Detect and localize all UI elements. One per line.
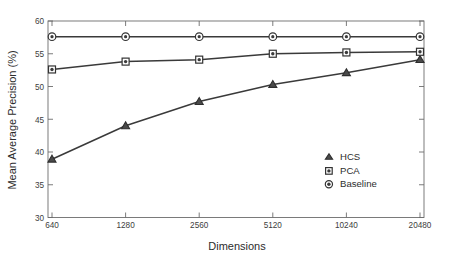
data-point-marker-dot — [50, 68, 53, 71]
y-axis-title: Mean Average Precision (%) — [6, 50, 18, 189]
legend-entry-pca: PCA — [326, 165, 361, 176]
triangle-marker-icon — [325, 154, 332, 159]
x-axis-title: Dimensions — [208, 240, 266, 252]
series-baseline — [48, 33, 424, 41]
series-line — [52, 52, 420, 70]
data-point-marker-dot — [418, 50, 421, 53]
x-tick-label: 5120 — [264, 221, 283, 230]
x-tick-label: 20480 — [409, 221, 432, 230]
x-tick-label: 640 — [45, 221, 59, 230]
data-point-marker-dot — [198, 58, 201, 61]
x-tick-label: 10240 — [335, 221, 358, 230]
series-line — [52, 60, 420, 160]
circle-marker-center-dot-icon — [327, 183, 330, 186]
legend-label: Baseline — [340, 178, 377, 189]
data-point-marker-dot — [198, 35, 201, 38]
x-axis-tick-labels: 640 1280 2560 5120 10240 20480 — [45, 221, 432, 230]
legend-label: HCS — [340, 151, 360, 162]
data-point-marker-dot — [345, 35, 348, 38]
y-tick-label: 50 — [35, 83, 45, 92]
y-tick-label: 40 — [35, 148, 45, 157]
series-layer — [48, 33, 424, 162]
line-chart: 60 55 50 45 40 35 30 640 1280 — [0, 0, 454, 266]
data-point-marker — [416, 56, 424, 63]
y-tick-label: 55 — [35, 50, 45, 59]
series-hcs — [48, 56, 424, 162]
y-tick-label: 30 — [35, 214, 45, 223]
chart-legend: HCS PCA Baseline — [325, 151, 377, 189]
data-point-marker-dot — [271, 52, 274, 55]
square-marker-center-dot-icon — [327, 169, 330, 172]
data-point-marker-dot — [271, 35, 274, 38]
legend-entry-hcs: HCS — [325, 151, 360, 162]
data-point-marker-dot — [418, 35, 421, 38]
legend-entry-baseline: Baseline — [325, 178, 377, 189]
data-point-marker-dot — [345, 51, 348, 54]
y-tick-label: 60 — [35, 17, 45, 26]
y-axis-tick-labels: 60 55 50 45 40 35 30 — [35, 17, 45, 223]
data-point-marker-dot — [124, 35, 127, 38]
x-tick-label: 1280 — [116, 221, 135, 230]
data-point-marker-dot — [50, 35, 53, 38]
legend-label: PCA — [340, 165, 360, 176]
chart-page: 60 55 50 45 40 35 30 640 1280 — [0, 0, 454, 266]
data-point-marker-dot — [124, 60, 127, 63]
y-tick-label: 35 — [35, 181, 45, 190]
y-tick-label: 45 — [35, 116, 45, 125]
x-tick-label: 2560 — [190, 221, 209, 230]
